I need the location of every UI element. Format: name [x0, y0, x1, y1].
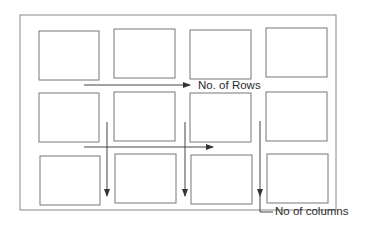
- columns-label: No of columns: [275, 206, 349, 218]
- grid-cell: [39, 31, 99, 80]
- grid-cell: [40, 156, 100, 205]
- grid-cell: [114, 92, 175, 141]
- grid-cell: [191, 155, 252, 204]
- grid-cell: [39, 93, 99, 142]
- grid-cell: [190, 93, 251, 142]
- grid-cell: [115, 154, 176, 203]
- grid-cell: [114, 29, 175, 78]
- grid-cell: [266, 28, 327, 77]
- outer-frame: [20, 15, 336, 210]
- grid-cell: [266, 92, 327, 141]
- grid-cell: [190, 30, 251, 79]
- rows-label: No. of Rows: [198, 80, 261, 92]
- grid-cell: [267, 154, 328, 203]
